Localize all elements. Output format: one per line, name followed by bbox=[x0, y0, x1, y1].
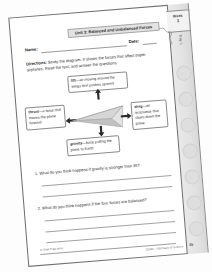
name-label: Name: bbox=[25, 46, 38, 52]
callout-gravity-term: gravity bbox=[70, 141, 82, 146]
page-number: 35 bbox=[189, 243, 193, 247]
date-label: Date: bbox=[128, 38, 139, 44]
watermark-dot bbox=[188, 221, 204, 237]
callout-lift-definition: —air moving around the wings that pushes… bbox=[71, 75, 115, 88]
watermark-dot bbox=[178, 91, 194, 107]
lift-arrow-icon bbox=[94, 88, 102, 100]
drag-arrow-icon bbox=[120, 112, 132, 120]
callout-thrust-term: thrust bbox=[28, 110, 39, 115]
worksheet-page: Day 1 Week 1 Unit 3: Balanced and Unbala… bbox=[8, 3, 209, 267]
watermark-dot bbox=[180, 117, 196, 133]
watermark-dot bbox=[184, 169, 200, 185]
watermark-dot bbox=[182, 143, 198, 159]
callout-drag: drag—air resistance that slows down the … bbox=[130, 99, 168, 130]
watermark-dot bbox=[176, 65, 192, 81]
gravity-arrow-icon bbox=[97, 125, 105, 137]
screenshot-canvas: Day 1 Week 1 Unit 3: Balanced and Unbala… bbox=[0, 0, 212, 272]
callout-thrust: thrust—a force that moves the plane forw… bbox=[25, 104, 67, 130]
watermark-dot bbox=[186, 195, 202, 211]
